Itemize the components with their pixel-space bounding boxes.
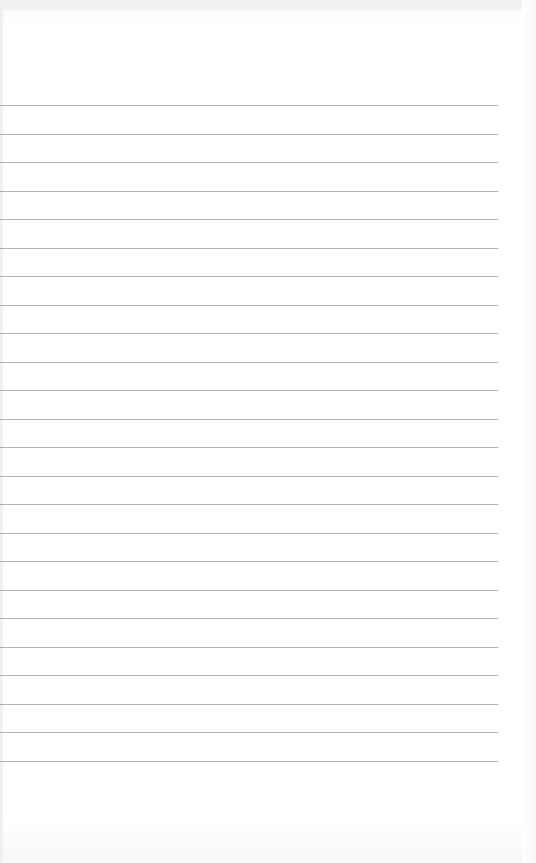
lined-paper-sheet [0,0,536,863]
ruled-line [0,362,498,363]
ruled-line [0,704,498,705]
ruled-line [0,447,498,448]
ruled-line [0,248,498,249]
ruled-line [0,276,498,277]
ruled-line [0,162,498,163]
ruled-lines [0,0,536,863]
ruled-line [0,419,498,420]
ruled-line [0,390,498,391]
ruled-line [0,561,498,562]
ruled-line [0,732,498,733]
ruled-line [0,476,498,477]
ruled-line [0,533,498,534]
ruled-line [0,333,498,334]
ruled-line [0,305,498,306]
ruled-line [0,590,498,591]
ruled-line [0,105,498,106]
ruled-line [0,191,498,192]
ruled-line [0,761,498,762]
ruled-line [0,134,498,135]
ruled-line [0,647,498,648]
ruled-line [0,504,498,505]
ruled-line [0,618,498,619]
ruled-line [0,219,498,220]
ruled-line [0,675,498,676]
